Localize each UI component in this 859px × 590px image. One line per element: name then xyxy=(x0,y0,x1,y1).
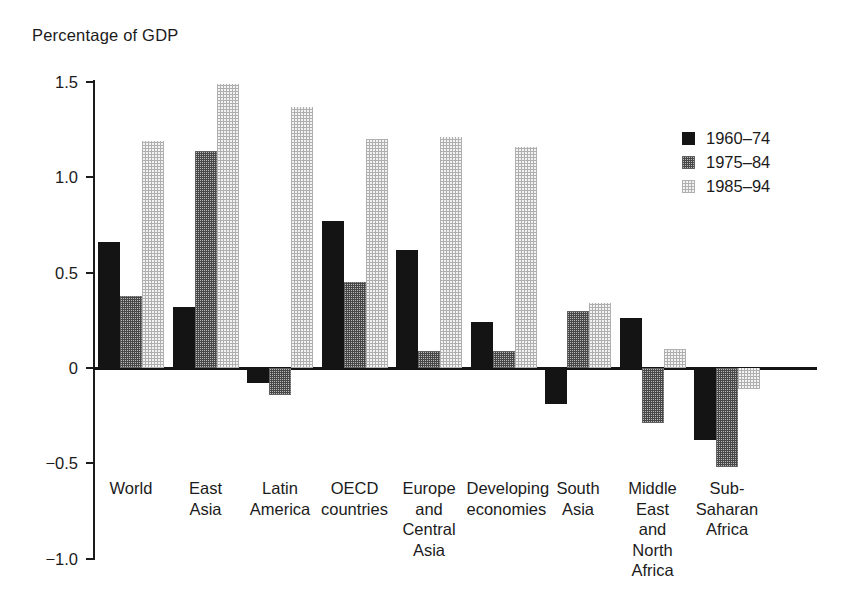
bar xyxy=(515,147,537,368)
x-axis-category-label: Developingeconomies xyxy=(467,478,541,519)
y-axis-tick-label: 0.5 xyxy=(14,263,78,282)
bar xyxy=(589,303,611,368)
bar xyxy=(471,322,493,368)
x-axis-category-label: World xyxy=(94,478,168,499)
x-axis-category-label-line: Central xyxy=(392,519,466,540)
bar xyxy=(396,250,418,368)
x-axis-category-label-line: OECD xyxy=(318,478,392,499)
x-axis-category-label: OECDcountries xyxy=(318,478,392,519)
legend-swatch-icon xyxy=(682,156,695,169)
bar xyxy=(493,351,515,368)
x-axis-category-label: Sub-SaharanAfrica xyxy=(690,478,764,540)
x-axis-category-label-line: Africa xyxy=(690,519,764,540)
bar xyxy=(217,84,239,368)
x-axis-category-label-line: Sub- xyxy=(690,478,764,499)
x-axis-category-label-line: World xyxy=(94,478,168,499)
chart-figure: Percentage of GDP 1.51.00.50−0.5−1.0 Wor… xyxy=(0,0,859,590)
bar xyxy=(716,368,738,467)
legend-item: 1985–94 xyxy=(682,174,842,198)
x-axis-category-label-line: North xyxy=(616,540,690,561)
x-axis-category-label: EastAsia xyxy=(169,478,243,519)
x-axis-category-label-line: Asia xyxy=(392,540,466,561)
x-axis-category-label-line: South xyxy=(541,478,615,499)
bar xyxy=(322,221,344,368)
x-axis-category-label-line: Africa xyxy=(616,560,690,581)
x-axis-category-label-line: Latin xyxy=(243,478,317,499)
legend-item-label: 1975–84 xyxy=(706,153,770,172)
chart-legend: 1960–741975–841985–94 xyxy=(682,126,842,198)
x-axis-category-label-line: Asia xyxy=(169,499,243,520)
x-axis-category-label-line: America xyxy=(243,499,317,520)
bar xyxy=(642,368,664,423)
bar xyxy=(738,368,760,389)
bar xyxy=(567,311,589,368)
y-axis-tick-label: −0.5 xyxy=(14,454,78,473)
bar xyxy=(142,141,164,368)
x-axis-category-label-line: economies xyxy=(467,499,541,520)
x-axis-category-label: MiddleEastandNorthAfrica xyxy=(616,478,690,581)
x-axis-category-label: LatinAmerica xyxy=(243,478,317,519)
legend-item-label: 1985–94 xyxy=(706,177,770,196)
bar xyxy=(440,137,462,368)
x-axis-category-label-line: and xyxy=(616,519,690,540)
bar xyxy=(120,296,142,368)
x-axis-category-label-line: Saharan xyxy=(690,499,764,520)
legend-item-label: 1960–74 xyxy=(706,129,770,148)
legend-item: 1975–84 xyxy=(682,150,842,174)
x-axis-category-label-line: and xyxy=(392,499,466,520)
bar xyxy=(664,349,686,368)
x-axis-category-label-line: Europe xyxy=(392,478,466,499)
x-axis-category-label-line: East xyxy=(169,478,243,499)
x-axis-category-label-line: East xyxy=(616,499,690,520)
bar xyxy=(269,368,291,395)
bar xyxy=(98,242,120,368)
x-axis-category-label-line: Developing xyxy=(467,478,541,499)
legend-item: 1960–74 xyxy=(682,126,842,150)
x-axis-category-label: EuropeandCentralAsia xyxy=(392,478,466,560)
bar xyxy=(173,307,195,368)
legend-swatch-icon xyxy=(682,180,695,193)
bar xyxy=(291,107,313,368)
x-axis-category-label-line: Asia xyxy=(541,499,615,520)
y-axis-tick-label: 0 xyxy=(14,359,78,378)
x-axis-category-label-line: Middle xyxy=(616,478,690,499)
legend-swatch-icon xyxy=(682,132,695,145)
bar xyxy=(344,282,366,368)
y-axis-tick-label: 1.5 xyxy=(14,73,78,92)
bar xyxy=(620,318,642,368)
bar xyxy=(545,368,567,404)
bar xyxy=(694,368,716,440)
bar xyxy=(247,368,269,383)
x-axis-category-label: SouthAsia xyxy=(541,478,615,519)
chart-title: Percentage of GDP xyxy=(32,26,178,45)
x-axis-category-label-line: countries xyxy=(318,499,392,520)
bar xyxy=(366,139,388,368)
y-axis-tick-label: 1.0 xyxy=(14,168,78,187)
y-axis-tick-label: −1.0 xyxy=(14,549,78,568)
bar xyxy=(418,351,440,368)
bar xyxy=(195,151,217,368)
